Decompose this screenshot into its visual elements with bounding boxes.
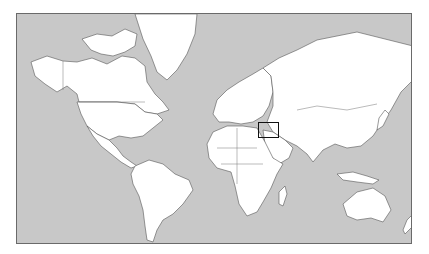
landmass-europe — [213, 68, 273, 124]
landmass-madagascar — [279, 186, 287, 206]
landmass-arctic-islands — [82, 29, 137, 56]
highlight-box-middle-east — [258, 122, 279, 138]
landmass-indonesia — [337, 172, 379, 184]
landmass-australia — [343, 188, 391, 222]
world-map-graphic — [17, 14, 412, 244]
landmass-south-america — [131, 160, 193, 242]
landmass-new-zealand — [403, 214, 412, 234]
world-map — [16, 13, 412, 244]
